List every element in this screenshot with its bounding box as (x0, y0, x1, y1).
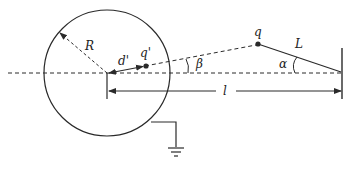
radius-arrow (60, 33, 107, 73)
radius-label: R (84, 39, 94, 53)
beta-angle-arc (186, 59, 188, 73)
image-charge-dot (143, 63, 148, 68)
alpha-label: α (279, 57, 287, 71)
distance-label: l (223, 84, 227, 98)
charge-label: q (254, 25, 262, 39)
image-distance-label: d' (118, 54, 129, 68)
string-length-label: L (294, 37, 303, 51)
alpha-angle-arc (294, 57, 297, 73)
beta-label: β (195, 57, 203, 71)
ground-icon (168, 148, 184, 156)
diagram-canvas: R d' q' l β q L α (0, 0, 345, 170)
image-charge-label: q' (140, 46, 151, 60)
ground-wire (151, 122, 176, 147)
